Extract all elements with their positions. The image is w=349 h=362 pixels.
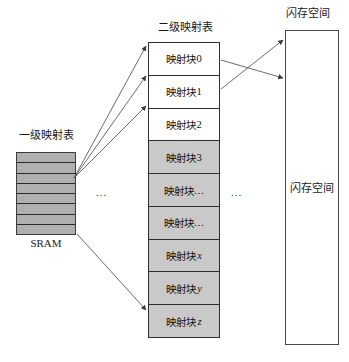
level2-cell-prefix: 映射块 — [164, 215, 194, 230]
level2-cell: 映射块… — [149, 207, 219, 240]
level2-cell: 映射块 z — [149, 305, 219, 337]
level2-cell-suffix: x — [196, 250, 202, 261]
level2-mapping-table: 映射块 0 映射块 1 映射块 2 映射块 3 映射块… 映射块… 映射块 x … — [148, 42, 220, 338]
level2-cell-prefix: 映射块 — [166, 150, 196, 165]
level2-cell-suffix: z — [196, 316, 201, 327]
arrow-block-0-to-flash — [221, 60, 283, 78]
ellipsis-left: ... — [96, 186, 107, 198]
level2-cell: 映射块 1 — [149, 76, 219, 109]
level2-cell: 映射块 3 — [149, 141, 219, 174]
level2-cell-suffix: 0 — [196, 53, 201, 64]
level2-cell: 映射块 0 — [149, 43, 219, 76]
level2-cell-suffix: 1 — [196, 86, 201, 97]
level2-cell-prefix: 映射块 — [166, 248, 196, 263]
arrow-block-1-to-flash — [221, 40, 283, 89]
level2-cell-prefix: 映射块 — [164, 183, 194, 198]
diagram-canvas: 一级映射表 SRAM ... 二级映射表 映射块 0 映射块 1 映射块 2 映… — [0, 0, 349, 362]
level1-row — [17, 204, 75, 214]
level1-row — [17, 215, 75, 225]
level1-row — [17, 174, 75, 184]
level2-cell-prefix: 映射块 — [166, 281, 196, 296]
level2-cell-prefix: 映射块 — [166, 314, 196, 329]
sram-caption: SRAM — [14, 237, 78, 250]
level2-cell-prefix: 映射块 — [166, 117, 196, 132]
arrow-sram-to-block-1 — [74, 76, 146, 178]
ellipsis-right: ... — [231, 186, 242, 198]
level2-cell-prefix: 映射块 — [166, 51, 196, 66]
flash-space-inner-label: 闪存空间 — [285, 182, 339, 195]
level1-row — [17, 194, 75, 204]
level2-cell: 映射块 2 — [149, 109, 219, 142]
level2-cell: 映射块… — [149, 174, 219, 207]
arrow-sram-to-block-z — [77, 234, 146, 310]
level2-cell: 映射块 y — [149, 272, 219, 305]
level1-row — [17, 184, 75, 194]
level2-table-title: 二级映射表 — [140, 21, 230, 34]
level1-row — [17, 153, 75, 163]
level1-row — [17, 163, 75, 173]
level1-mapping-table — [16, 152, 76, 235]
level2-cell-suffix: 3 — [196, 152, 201, 163]
level2-cell-suffix: y — [196, 283, 202, 294]
flash-space-title: 闪存空间 — [276, 7, 340, 20]
level1-row — [17, 225, 75, 234]
level2-cell: 映射块 x — [149, 240, 219, 273]
arrow-sram-to-block-0 — [74, 46, 146, 178]
level2-cell-suffix: 2 — [196, 119, 201, 130]
level2-cell-suffix: … — [194, 217, 205, 228]
level2-cell-prefix: 映射块 — [166, 84, 196, 99]
level1-table-title: 一级映射表 — [16, 129, 76, 142]
arrow-sram-to-block-2 — [74, 106, 146, 178]
level2-cell-suffix: … — [194, 185, 205, 196]
